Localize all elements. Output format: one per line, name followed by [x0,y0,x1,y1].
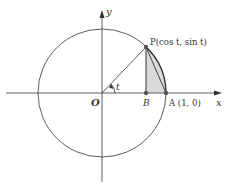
point-p-label: P(cos t, sin t) [150,37,207,47]
point-p [144,45,148,49]
unit-circle-diagram: y x O t P(cos t, sin t) B A (1, 0) [0,0,226,190]
radius-op [102,47,146,93]
point-a-label: A (1, 0) [168,98,201,108]
point-b-label: B [142,98,150,108]
y-axis-arrow-icon [100,10,105,18]
origin-label: O [91,97,100,108]
x-axis-label: x [216,97,222,108]
x-axis-arrow-icon [214,91,222,96]
y-axis-label: y [105,6,112,17]
point-a [164,91,168,95]
angle-label: t [116,82,120,92]
point-b [144,91,148,95]
